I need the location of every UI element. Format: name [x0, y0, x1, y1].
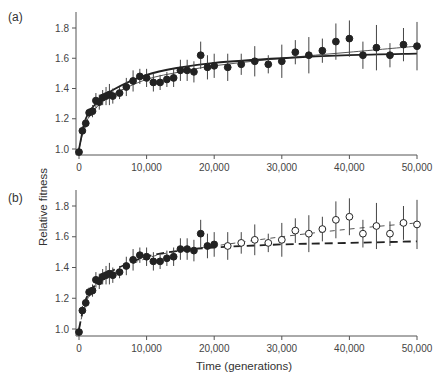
y-tick-label: 1.6: [55, 231, 69, 242]
data-point: [82, 120, 89, 127]
x-tick-label: 40,000: [334, 343, 365, 354]
data-point: [400, 41, 407, 48]
data-point: [79, 307, 86, 314]
data-point: [170, 253, 177, 260]
data-point: [251, 236, 258, 243]
data-point: [197, 230, 204, 237]
data-point: [400, 220, 407, 227]
x-tick-label: 0: [76, 162, 82, 173]
x-tick-label: 30,000: [267, 162, 298, 173]
data-point: [76, 149, 83, 156]
data-point: [373, 223, 380, 230]
data-point: [157, 79, 164, 86]
data-point: [157, 258, 164, 265]
data-point: [109, 93, 116, 100]
data-point: [265, 240, 272, 247]
y-tick-label: 1.2: [55, 113, 69, 124]
data-point: [79, 127, 86, 134]
data-point: [265, 61, 272, 68]
data-point: [387, 52, 394, 59]
figure-canvas: 1.01.21.41.61.8010,00020,00030,00040,000…: [0, 0, 445, 384]
data-point: [177, 246, 184, 253]
data-point: [177, 67, 184, 74]
data-point: [143, 253, 150, 260]
panel-a-plot: 1.01.21.41.61.8010,00020,00030,00040,000…: [55, 12, 433, 173]
data-point: [116, 269, 123, 276]
data-point: [360, 230, 367, 237]
data-point: [211, 241, 218, 248]
data-point: [251, 58, 258, 65]
data-point: [184, 67, 191, 74]
data-point: [305, 230, 312, 237]
data-point: [150, 79, 157, 86]
data-point: [197, 52, 204, 59]
data-point: [319, 47, 326, 54]
data-point: [238, 61, 245, 68]
data-point: [278, 236, 285, 243]
x-tick-label: 20,000: [199, 343, 230, 354]
y-tick-label: 1.6: [55, 53, 69, 64]
data-point: [150, 258, 157, 265]
data-point: [292, 227, 299, 234]
data-point: [238, 240, 245, 247]
data-point: [123, 84, 130, 91]
data-point: [136, 73, 143, 80]
data-point: [414, 221, 421, 228]
y-tick-label: 1.8: [55, 23, 69, 34]
y-tick-label: 1.0: [55, 144, 69, 155]
data-point: [332, 216, 339, 223]
data-point: [191, 247, 198, 254]
data-point: [130, 256, 137, 263]
data-point: [116, 90, 123, 97]
data-point: [170, 75, 177, 82]
data-point: [332, 38, 339, 45]
data-point: [292, 49, 299, 56]
data-point: [82, 299, 89, 306]
data-point: [76, 329, 83, 336]
data-point: [191, 68, 198, 75]
data-point: [346, 213, 353, 220]
data-point: [123, 263, 130, 270]
y-tick-label: 1.4: [55, 262, 69, 273]
x-tick-label: 0: [76, 343, 82, 354]
data-point: [204, 64, 211, 71]
y-tick-label: 1.8: [55, 201, 69, 212]
data-point: [143, 75, 150, 82]
data-point: [414, 43, 421, 50]
data-point: [163, 76, 170, 83]
data-point: [305, 52, 312, 59]
data-point: [224, 64, 231, 71]
fit-curve: [79, 46, 417, 149]
x-tick-label: 40,000: [334, 162, 365, 173]
fit-curve: [79, 223, 417, 329]
data-point: [346, 35, 353, 42]
data-point: [89, 108, 96, 115]
x-tick-label: 10,000: [131, 343, 162, 354]
x-tick-label: 30,000: [267, 343, 298, 354]
data-point: [319, 226, 326, 233]
y-tick-label: 1.2: [55, 293, 69, 304]
panel-b-plot: 1.01.21.41.61.8010,00020,00030,00040,000…: [55, 190, 433, 354]
x-tick-label: 20,000: [199, 162, 230, 173]
data-point: [136, 252, 143, 259]
data-point: [360, 52, 367, 59]
fit-curve: [79, 241, 417, 329]
data-point: [109, 272, 116, 279]
data-point: [373, 44, 380, 51]
data-point: [204, 243, 211, 250]
x-tick-label: 50,000: [402, 343, 433, 354]
data-point: [387, 230, 394, 237]
data-point: [130, 78, 137, 85]
fit-curve: [79, 54, 417, 149]
data-point: [224, 243, 231, 250]
y-tick-label: 1.4: [55, 83, 69, 94]
x-tick-label: 50,000: [402, 162, 433, 173]
data-point: [163, 255, 170, 262]
data-point: [211, 62, 218, 69]
data-point: [278, 58, 285, 65]
y-tick-label: 1.0: [55, 324, 69, 335]
data-point: [184, 246, 191, 253]
data-point: [89, 287, 96, 294]
x-tick-label: 10,000: [131, 162, 162, 173]
